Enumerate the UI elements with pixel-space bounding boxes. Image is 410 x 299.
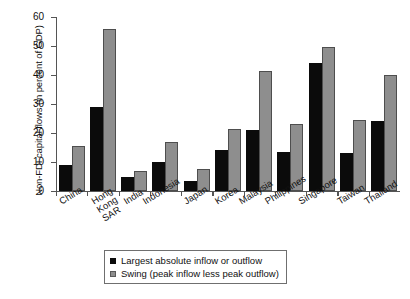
bar-largest-flow <box>309 63 322 191</box>
bar-group <box>87 17 118 191</box>
bars <box>369 17 400 191</box>
bar-largest-flow <box>90 107 103 191</box>
bars <box>244 17 275 191</box>
bar-swing <box>228 129 241 191</box>
y-axis-tick-label: 50 <box>33 41 44 51</box>
chart-legend: Largest absolute inflow or outflow Swing… <box>104 250 287 284</box>
x-axis-label: Indonesia <box>150 196 181 242</box>
y-axis-tick-label: 20 <box>33 128 44 138</box>
bar-swing <box>103 29 116 191</box>
x-axis-label: Japan <box>181 196 212 242</box>
bar-group <box>119 17 150 191</box>
bars <box>212 17 243 191</box>
legend-swatch-black-icon <box>110 258 116 264</box>
bar-group <box>212 17 243 191</box>
x-axis-labels: ChinaHong Kong SARIndiaIndonesiaJapanKor… <box>56 196 400 242</box>
y-axis-tick-label: 40 <box>33 70 44 80</box>
y-axis-tick-label: 10 <box>33 157 44 167</box>
bar-group <box>181 17 212 191</box>
bar-group <box>337 17 368 191</box>
bar-swing <box>353 120 366 191</box>
bar-group <box>369 17 400 191</box>
legend-swatch-gray-icon <box>110 271 116 277</box>
x-axis-label: Korea <box>212 196 243 242</box>
x-axis-label: Hong Kong SAR <box>87 196 118 242</box>
bar-chart: Non-FDI capital flows (in percent of GDP… <box>0 0 410 299</box>
bars <box>150 17 181 191</box>
legend-label: Swing (peak inflow less peak outflow) <box>121 269 279 279</box>
bar-swing <box>384 75 397 191</box>
bar-largest-flow <box>215 150 228 191</box>
x-axis-label: China <box>56 196 87 242</box>
bar-largest-flow <box>246 130 259 191</box>
legend-item: Swing (peak inflow less peak outflow) <box>110 267 279 280</box>
bar-group <box>306 17 337 191</box>
bars <box>275 17 306 191</box>
y-axis-tick-label: 30 <box>33 99 44 109</box>
bar-group <box>275 17 306 191</box>
bars <box>87 17 118 191</box>
bar-swing <box>259 71 272 191</box>
bar-swing <box>322 47 335 191</box>
bar-largest-flow <box>121 177 134 192</box>
bar-largest-flow <box>371 121 384 191</box>
x-axis-label: Singapore <box>306 196 337 242</box>
legend-item: Largest absolute inflow or outflow <box>110 254 279 267</box>
plot-area: 0102030405060 <box>56 17 400 191</box>
bars <box>119 17 150 191</box>
bar-group <box>56 17 87 191</box>
x-axis-label: Thailand <box>369 196 400 242</box>
bars <box>306 17 337 191</box>
bar-group <box>244 17 275 191</box>
bar-groups <box>56 17 400 191</box>
x-axis-label: Taiwan <box>337 196 368 242</box>
bars <box>181 17 212 191</box>
bar-largest-flow <box>340 153 353 191</box>
bars <box>337 17 368 191</box>
bar-group <box>150 17 181 191</box>
bar-largest-flow <box>59 165 72 191</box>
legend-label: Largest absolute inflow or outflow <box>121 256 262 266</box>
y-axis-tick-label: 60 <box>33 12 44 22</box>
y-axis-tick-label: 0 <box>38 186 44 196</box>
bars <box>56 17 87 191</box>
